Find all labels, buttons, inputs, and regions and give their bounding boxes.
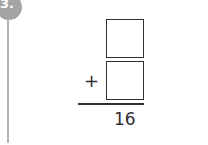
sum-line bbox=[78, 103, 144, 105]
margin-line bbox=[7, 18, 9, 143]
question-number-badge: 3. bbox=[0, 0, 22, 20]
addend-2-box[interactable] bbox=[106, 61, 144, 100]
addend-1-box[interactable] bbox=[106, 19, 144, 58]
plus-sign: + bbox=[84, 71, 99, 91]
sum-value: 16 bbox=[114, 109, 136, 129]
question-number: 3. bbox=[0, 0, 14, 11]
